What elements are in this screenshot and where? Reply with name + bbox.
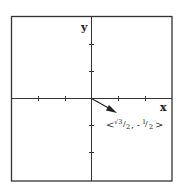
svg-text:2: 2 <box>126 123 130 131</box>
svg-text:2: 2 <box>149 123 153 131</box>
coordinate-plane: y x < √3 / 2 , - 1 / 2 > <box>0 0 179 185</box>
svg-text:>: > <box>155 119 163 130</box>
vector-label: < √3 / 2 , - 1 / 2 > <box>106 118 163 131</box>
svg-text:√3: √3 <box>114 118 122 126</box>
y-axis-label: y <box>80 21 88 34</box>
vector-arrow <box>92 99 118 114</box>
svg-text:, -: , - <box>131 120 140 130</box>
x-axis-label: x <box>160 101 167 114</box>
svg-text:/: / <box>145 119 148 128</box>
